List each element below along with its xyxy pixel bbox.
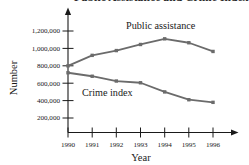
y-tick-label-400000: 400,000: [37, 97, 61, 105]
y-tick-labels: 200,000 400,000 600,000 800,000 1,000,00…: [32, 27, 61, 122]
data-point-marker: [187, 98, 190, 101]
x-axis-title: Year: [131, 152, 151, 163]
data-point-marker: [115, 49, 118, 52]
y-tick-label-1000000: 1,000,000: [32, 45, 61, 53]
x-tick-label-1990: 1990: [61, 141, 76, 149]
y-tick-label-200000: 200,000: [37, 114, 61, 122]
data-point-marker: [211, 50, 214, 53]
series-public-assistance: [66, 37, 214, 67]
chart-canvas: 200,000 400,000 600,000 800,000 1,000,00…: [0, 0, 249, 165]
data-point-marker: [139, 43, 142, 46]
x-tick-label-1995: 1995: [182, 141, 197, 149]
series-label-public-assistance: Public assistance: [126, 20, 196, 31]
data-point-marker: [187, 41, 190, 44]
data-point-marker: [90, 54, 93, 57]
y-tick-label-600000: 600,000: [37, 80, 61, 88]
data-point-marker: [163, 37, 166, 40]
y-axis: [65, 8, 71, 133]
y-axis-title: Number: [8, 60, 19, 95]
x-tick-label-1992: 1992: [109, 141, 124, 149]
x-tick-label-1991: 1991: [85, 141, 100, 149]
data-point-marker: [90, 75, 93, 78]
x-tick-labels: 1990 1991 1992 1993 1994 1995 1996: [61, 141, 221, 149]
x-tick-label-1996: 1996: [206, 141, 221, 149]
data-point-marker: [211, 101, 214, 104]
line-chart-figure: Public Assistance and Crime Index in New…: [0, 0, 249, 165]
series-label-crime-index: Crime index: [82, 87, 133, 98]
data-point-marker: [66, 71, 69, 74]
y-tick-label-1200000: 1,200,000: [32, 27, 61, 35]
x-tick-label-1993: 1993: [133, 141, 148, 149]
data-point-marker: [66, 64, 69, 67]
data-point-marker: [139, 81, 142, 84]
x-tick-label-1994: 1994: [158, 141, 173, 149]
data-point-marker: [163, 90, 166, 93]
data-point-marker: [115, 79, 118, 82]
y-tick-label-800000: 800,000: [37, 62, 61, 70]
